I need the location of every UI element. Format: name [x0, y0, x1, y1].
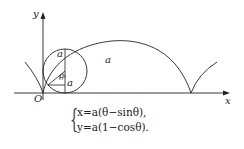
y-axis-arrow-icon — [41, 12, 46, 19]
equation-y: y=a(1−cosθ). — [77, 120, 149, 135]
cycloid-left-cusp — [25, 62, 43, 93]
arch-label: a — [105, 54, 111, 65]
angle-label: θ — [59, 73, 64, 82]
origin-label: O — [34, 93, 42, 104]
radius-label-top: a — [57, 48, 63, 59]
y-axis-label: y — [32, 8, 39, 19]
equation-x: x=a(θ−sinθ), — [77, 105, 146, 120]
x-axis-label: x — [225, 95, 231, 106]
radius-label-bottom: a — [67, 77, 73, 88]
cycloid-right-arch — [191, 62, 217, 93]
